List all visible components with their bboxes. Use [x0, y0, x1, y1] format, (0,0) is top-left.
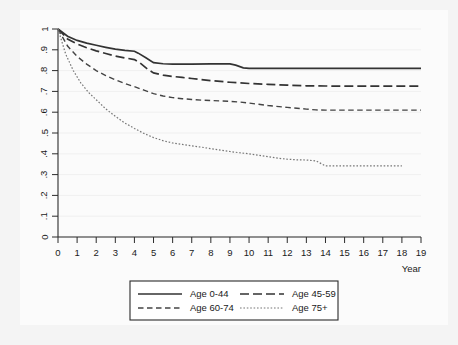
plot-panel-background	[20, 10, 448, 325]
x-tick-label: 8	[208, 247, 213, 258]
x-tick-label: 1	[74, 247, 79, 258]
y-tick-label: .5	[39, 129, 50, 137]
y-tick-label: .3	[39, 171, 50, 179]
x-axis-title: Year	[402, 263, 421, 274]
x-tick-label: 17	[378, 247, 389, 258]
legend-label-age-45-59: Age 45-59	[292, 288, 336, 299]
legend-label-age-0-44: Age 0-44	[190, 288, 229, 299]
x-tick-label: 2	[94, 247, 99, 258]
x-tick-label: 18	[397, 247, 408, 258]
x-tick-label: 0	[55, 247, 60, 258]
x-tick-label: 11	[263, 247, 273, 258]
y-tick-label: .6	[39, 108, 50, 116]
y-tick-label: .7	[39, 87, 50, 95]
y-tick-label: .9	[39, 46, 50, 54]
x-tick-label: 16	[358, 247, 369, 258]
x-tick-label: 7	[189, 247, 194, 258]
x-tick-label: 4	[132, 247, 137, 258]
legend-label-age-75: Age 75+	[292, 302, 328, 313]
x-tick-label: 15	[339, 247, 350, 258]
y-tick-label: .1	[39, 212, 50, 220]
chart-legend: Age 0-44Age 45-59Age 60-74Age 75+	[130, 281, 338, 320]
x-tick-label: 19	[416, 247, 427, 258]
x-tick-label: 12	[282, 247, 293, 258]
x-tick-label: 5	[151, 247, 156, 258]
y-tick-label: 0	[39, 234, 50, 239]
y-tick-label: .4	[39, 150, 50, 158]
y-tick-label: 1	[39, 26, 50, 31]
x-tick-label: 9	[227, 247, 232, 258]
x-tick-label: 14	[320, 247, 331, 258]
legend-label-age-60-74: Age 60-74	[190, 302, 234, 313]
y-tick-label: .2	[39, 191, 50, 199]
x-tick-label: 10	[244, 247, 255, 258]
x-tick-label: 6	[170, 247, 175, 258]
kaplan-meier-plot: 0.1.2.3.4.5.6.7.8.91 0123456789101112131…	[0, 0, 458, 345]
legend-border	[130, 281, 338, 320]
y-tick-label: .8	[39, 67, 50, 75]
x-tick-label: 3	[113, 247, 118, 258]
x-tick-label: 13	[301, 247, 312, 258]
survival-curve-figure: 0.1.2.3.4.5.6.7.8.91 0123456789101112131…	[0, 0, 458, 345]
